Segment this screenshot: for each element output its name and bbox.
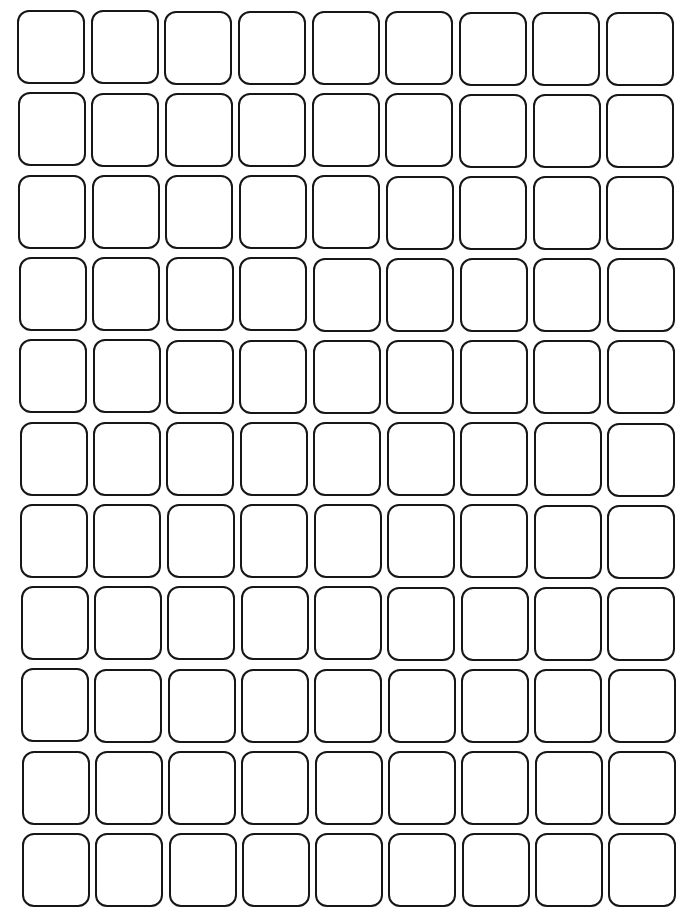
- grid-box-r1-c4: [238, 11, 306, 85]
- grid-box-r3-c4: [239, 175, 307, 249]
- grid-box-r1-c9: [606, 12, 674, 86]
- grid-box-r6-c9: [607, 423, 675, 497]
- grid-box-r2-c3: [165, 93, 233, 167]
- grid-box-r11-c6: [388, 833, 456, 907]
- grid-box-r4-c9: [607, 258, 675, 332]
- grid-box-r5-c4: [239, 340, 307, 414]
- grid-box-r1-c6: [385, 11, 453, 85]
- grid-box-r10-c9: [608, 751, 676, 825]
- grid-box-r4-c7: [460, 258, 528, 332]
- grid-box-r9-c7: [461, 669, 529, 743]
- grid-box-r4-c5: [313, 258, 381, 332]
- grid-box-r11-c7: [462, 833, 530, 907]
- grid-box-r9-c3: [168, 669, 236, 743]
- grid-box-r10-c2: [95, 751, 163, 825]
- grid-box-r2-c2: [91, 93, 159, 167]
- grid-box-r2-c4: [238, 93, 306, 167]
- grid-box-r10-c7: [461, 751, 529, 825]
- grid-box-r7-c4: [240, 504, 308, 578]
- grid-box-r5-c7: [460, 340, 528, 414]
- grid-box-r11-c3: [169, 833, 237, 907]
- grid-box-r5-c1: [19, 339, 87, 413]
- grid-box-r6-c6: [387, 422, 455, 496]
- grid-box-r4-c2: [92, 257, 160, 331]
- grid-box-r7-c5: [314, 504, 382, 578]
- grid-box-r6-c1: [20, 422, 88, 496]
- grid-box-r2-c7: [459, 94, 527, 168]
- grid-box-r3-c9: [606, 176, 674, 250]
- grid-box-r11-c2: [95, 833, 163, 907]
- grid-box-r8-c5: [314, 586, 382, 660]
- grid-box-r6-c2: [93, 422, 161, 496]
- grid-box-r11-c9: [608, 833, 676, 907]
- grid-box-r7-c9: [607, 505, 675, 579]
- grid-box-r9-c9: [608, 669, 676, 743]
- grid-box-r1-c2: [91, 10, 159, 84]
- grid-box-r9-c6: [388, 669, 456, 743]
- grid-box-r7-c3: [167, 504, 235, 578]
- grid-box-r9-c8: [534, 669, 602, 743]
- grid-box-r11-c1: [22, 833, 90, 907]
- grid-box-r8-c7: [461, 587, 529, 661]
- grid-box-r8-c2: [94, 586, 162, 660]
- grid-box-r7-c6: [387, 504, 455, 578]
- grid-box-r1-c7: [459, 12, 527, 86]
- grid-box-r11-c5: [315, 833, 383, 907]
- grid-box-r10-c4: [241, 751, 309, 825]
- grid-box-r7-c8: [534, 505, 602, 579]
- grid-box-r4-c4: [239, 257, 307, 331]
- grid-box-r3-c5: [312, 175, 380, 249]
- grid-box-r10-c6: [388, 751, 456, 825]
- grid-box-r4-c1: [19, 257, 87, 331]
- grid-box-r6-c5: [313, 422, 381, 496]
- grid-box-r9-c1: [21, 668, 89, 742]
- grid-box-r8-c3: [167, 586, 235, 660]
- grid-box-r9-c2: [94, 669, 162, 743]
- grid-box-r8-c1: [21, 586, 89, 660]
- grid-box-r11-c4: [242, 833, 310, 907]
- grid-box-r5-c3: [166, 340, 234, 414]
- grid-box-r8-c4: [241, 586, 309, 660]
- grid-box-r7-c1: [20, 504, 88, 578]
- grid-box-r10-c5: [315, 751, 383, 825]
- grid-box-r2-c8: [533, 94, 601, 168]
- grid-box-r5-c6: [386, 340, 454, 414]
- grid-box-r5-c8: [533, 340, 601, 414]
- grid-box-r1-c3: [164, 11, 232, 85]
- grid-box-r11-c8: [535, 833, 603, 907]
- grid-box-r1-c8: [532, 12, 600, 86]
- grid-box-r2-c1: [18, 92, 86, 166]
- grid-box-r2-c9: [606, 94, 674, 168]
- grid-box-r2-c5: [312, 93, 380, 167]
- grid-box-r2-c6: [385, 93, 453, 167]
- grid-box-r6-c4: [240, 422, 308, 496]
- grid-box-r4-c8: [533, 258, 601, 332]
- grid-box-r3-c8: [533, 176, 601, 250]
- grid-box-r3-c7: [459, 176, 527, 250]
- grid-box-r3-c3: [165, 175, 233, 249]
- grid-box-r3-c6: [386, 176, 454, 250]
- grid-box-r4-c6: [386, 258, 454, 332]
- grid-box-r6-c3: [166, 422, 234, 496]
- grid-box-r3-c2: [92, 175, 160, 249]
- grid-box-r8-c6: [387, 587, 455, 661]
- grid-box-r9-c4: [241, 669, 309, 743]
- grid-box-r1-c5: [312, 11, 380, 85]
- grid-box-r5-c9: [607, 340, 675, 414]
- grid-box-r8-c9: [607, 587, 675, 661]
- grid-box-r10-c1: [22, 751, 90, 825]
- grid-box-r8-c8: [534, 587, 602, 661]
- grid-box-r5-c2: [93, 339, 161, 413]
- grid-box-r1-c1: [17, 10, 85, 84]
- grid-box-r5-c5: [313, 340, 381, 414]
- grid-box-r6-c7: [460, 422, 528, 496]
- grid-box-r4-c3: [166, 257, 234, 331]
- grid-box-r3-c1: [18, 175, 86, 249]
- grid-box-r9-c5: [314, 669, 382, 743]
- grid-box-r10-c3: [168, 751, 236, 825]
- empty-box-grid: [0, 0, 696, 924]
- grid-box-r6-c8: [534, 422, 602, 496]
- grid-box-r10-c8: [535, 751, 603, 825]
- grid-box-r7-c2: [93, 504, 161, 578]
- grid-box-r7-c7: [460, 504, 528, 578]
